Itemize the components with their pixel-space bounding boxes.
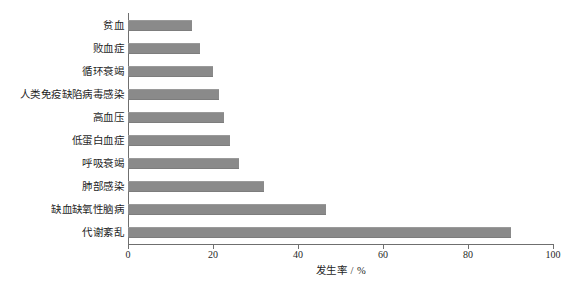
x-tick-label-4: 80 <box>463 249 473 260</box>
category-label-0: 贫血 <box>103 14 124 37</box>
x-axis-title: 发生率 / % <box>128 262 554 277</box>
x-tick-label-3: 60 <box>378 249 388 260</box>
x-tick-label-2: 40 <box>293 249 303 260</box>
bar-row <box>128 152 553 175</box>
category-label-7: 肺部感染 <box>82 175 124 198</box>
bar-chart: 贫血 败血症 循环衰竭 人类免疫缺陷病毒感染 高血压 低蛋白血症 呼吸衰竭 肺部… <box>0 0 569 282</box>
bar-row <box>128 37 553 60</box>
bar-0 <box>128 20 192 31</box>
bar-8 <box>128 204 326 215</box>
bar-row <box>128 221 553 244</box>
category-label-1: 败血症 <box>93 37 124 60</box>
category-axis-labels: 贫血 败血症 循环衰竭 人类免疫缺陷病毒感染 高血压 低蛋白血症 呼吸衰竭 肺部… <box>0 14 124 244</box>
x-tick-label-0: 0 <box>126 249 131 260</box>
category-label-6: 呼吸衰竭 <box>82 152 124 175</box>
bar-4 <box>128 112 224 123</box>
plot-area <box>128 14 553 244</box>
category-label-4: 高血压 <box>93 106 124 129</box>
bar-6 <box>128 158 239 169</box>
category-label-9: 代谢紊乱 <box>82 221 124 244</box>
bar-9 <box>128 227 511 238</box>
bar-1 <box>128 43 200 54</box>
x-tick-label-5: 100 <box>546 249 561 260</box>
bars-container <box>128 14 553 244</box>
bar-row <box>128 60 553 83</box>
bar-row <box>128 83 553 106</box>
bar-2 <box>128 66 213 77</box>
bar-row <box>128 129 553 152</box>
category-label-3: 人类免疫缺陷病毒感染 <box>20 83 124 106</box>
bar-5 <box>128 135 230 146</box>
bar-row <box>128 198 553 221</box>
bar-row <box>128 175 553 198</box>
x-axis-ticks: 0 20 40 60 80 100 <box>128 245 554 263</box>
category-label-2: 循环衰竭 <box>82 60 124 83</box>
bar-7 <box>128 181 264 192</box>
bar-3 <box>128 89 219 100</box>
category-label-5: 低蛋白血症 <box>72 129 124 152</box>
x-tick-label-1: 20 <box>208 249 218 260</box>
bar-row <box>128 106 553 129</box>
bar-row <box>128 14 553 37</box>
category-label-8: 缺血缺氧性脑病 <box>51 198 124 221</box>
